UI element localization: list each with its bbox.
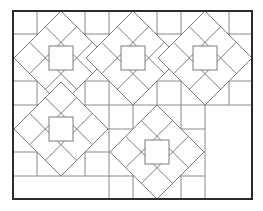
square-in-square-block [110,105,204,199]
inner-square [193,46,217,70]
quilt-diagram [0,0,263,211]
inner-square [145,140,169,164]
inner-square [49,46,73,70]
square-in-square-block [14,82,108,176]
inner-square [121,46,145,70]
square-in-square-block [158,11,252,105]
inner-square [49,117,73,141]
